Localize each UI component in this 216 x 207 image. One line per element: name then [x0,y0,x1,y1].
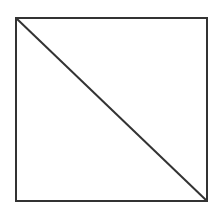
diagonal-line [16,18,207,201]
square-diagonal-diagram [0,0,216,207]
